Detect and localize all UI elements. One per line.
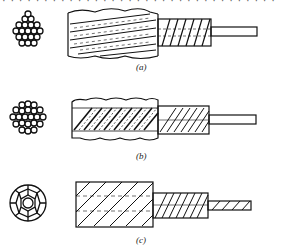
label-c: (c) bbox=[136, 235, 146, 245]
label-b: (b) bbox=[136, 151, 147, 161]
cross-section-a bbox=[13, 11, 43, 46]
side-view-c bbox=[76, 182, 251, 227]
side-view-b bbox=[72, 98, 256, 140]
wire-rope-diagram: (a) (b) bbox=[0, 0, 303, 251]
side-view-a bbox=[68, 9, 257, 59]
label-a: (a) bbox=[136, 62, 147, 72]
cross-section-b bbox=[10, 101, 46, 134]
cross-section-c bbox=[10, 185, 46, 221]
